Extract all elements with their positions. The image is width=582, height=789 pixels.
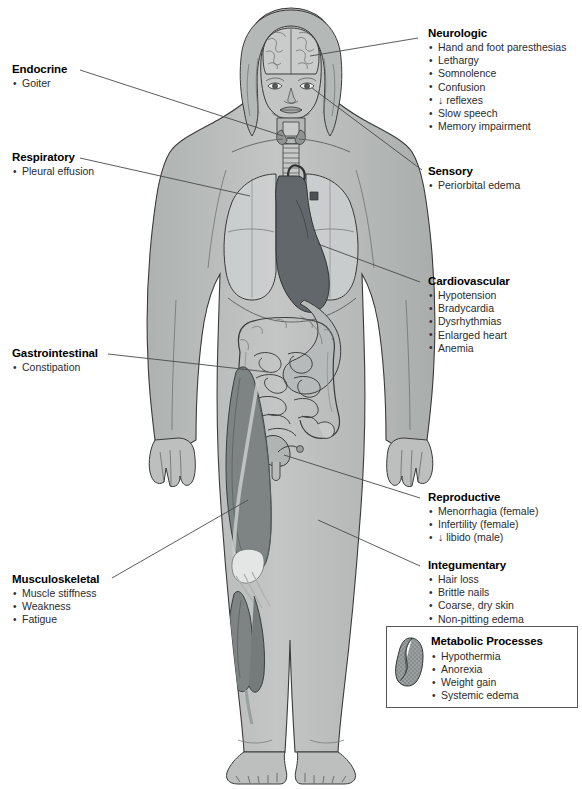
callout-gastrointestinal-list: Constipation <box>12 361 98 374</box>
callout-gastrointestinal-title: Gastrointestinal <box>12 347 98 360</box>
list-item: Constipation <box>12 361 98 374</box>
callout-metabolic-processes: Metabolic Processes Hypothermia Anorexia… <box>386 626 578 708</box>
list-item: Periorbital edema <box>428 179 520 192</box>
callout-neurologic-list: Hand and foot paresthesias Lethargy Somn… <box>428 41 566 133</box>
callout-integumentary-title: Integumentary <box>428 559 524 572</box>
list-item: Menorrhagia (female) <box>428 505 538 518</box>
callout-musculoskeletal-title: Musculoskeletal <box>12 573 99 586</box>
callout-reproductive: Reproductive Menorrhagia (female) Infert… <box>428 491 538 545</box>
list-item: Hand and foot paresthesias <box>428 41 566 54</box>
list-item: Weight gain <box>431 676 571 689</box>
list-item: Anorexia <box>431 663 571 676</box>
list-item: Somnolence <box>428 67 566 80</box>
list-item: Goiter <box>12 77 67 90</box>
list-item: Lethargy <box>428 54 566 67</box>
list-item: Hair loss <box>428 573 524 586</box>
list-item: ↓ libido (male) <box>428 531 538 544</box>
callout-respiratory: Respiratory Pleural effusion <box>12 151 94 178</box>
list-item: Pleural effusion <box>12 165 94 178</box>
callout-endocrine-list: Goiter <box>12 77 67 90</box>
list-item: Coarse, dry skin <box>428 599 524 612</box>
list-item: Memory impairment <box>428 120 566 133</box>
list-item: Weakness <box>12 600 99 613</box>
callout-integumentary: Integumentary Hair loss Brittle nails Co… <box>428 559 524 626</box>
list-item: Confusion <box>428 81 566 94</box>
callout-metabolic-list: Hypothermia Anorexia Weight gain Systemi… <box>431 650 571 702</box>
list-item: Muscle stiffness <box>12 587 99 600</box>
callout-gastrointestinal: Gastrointestinal Constipation <box>12 347 98 374</box>
metabolic-text-block: Metabolic Processes Hypothermia Anorexia… <box>431 634 571 702</box>
callout-cardiovascular-title: Cardiovascular <box>428 275 510 288</box>
list-item: ↓ reflexes <box>428 94 566 107</box>
list-item: Fatigue <box>12 613 99 626</box>
callout-sensory-title: Sensory <box>428 165 520 178</box>
list-item: Anemia <box>428 342 510 355</box>
callout-neurologic: Neurologic Hand and foot paresthesias Le… <box>428 27 566 133</box>
list-item: Hypothermia <box>431 650 571 663</box>
callout-musculoskeletal: Musculoskeletal Muscle stiffness Weaknes… <box>12 573 99 627</box>
callout-reproductive-title: Reproductive <box>428 491 538 504</box>
list-item: Non-pitting edema <box>428 613 524 626</box>
callout-cardiovascular-list: Hypotension Bradycardia Dysrhythmias Enl… <box>428 289 510 355</box>
callout-sensory: Sensory Periorbital edema <box>428 165 520 192</box>
list-item: Bradycardia <box>428 302 510 315</box>
list-item: Infertility (female) <box>428 518 538 531</box>
list-item: Brittle nails <box>428 586 524 599</box>
callout-endocrine: Endocrine Goiter <box>12 63 67 90</box>
callout-neurologic-title: Neurologic <box>428 27 566 40</box>
head-and-face <box>261 26 322 120</box>
callout-respiratory-title: Respiratory <box>12 151 94 164</box>
callout-musculoskeletal-list: Muscle stiffness Weakness Fatigue <box>12 587 99 627</box>
list-item: Enlarged heart <box>428 329 510 342</box>
callout-endocrine-title: Endocrine <box>12 63 67 76</box>
list-item: Hypotension <box>428 289 510 302</box>
list-item: Slow speech <box>428 107 566 120</box>
list-item: Systemic edema <box>431 689 571 702</box>
callout-sensory-list: Periorbital edema <box>428 179 520 192</box>
callout-integumentary-list: Hair loss Brittle nails Coarse, dry skin… <box>428 573 524 626</box>
callout-respiratory-list: Pleural effusion <box>12 165 94 178</box>
callout-reproductive-list: Menorrhagia (female) Infertility (female… <box>428 505 538 545</box>
callout-metabolic-title: Metabolic Processes <box>431 635 571 648</box>
callout-cardiovascular: Cardiovascular Hypotension Bradycardia D… <box>428 275 510 355</box>
brain <box>263 28 319 74</box>
hypothyroidism-diagram: Neurologic Hand and foot paresthesias Le… <box>0 0 582 789</box>
list-item: Dysrhythmias <box>428 315 510 328</box>
kidney-organ-icon <box>394 636 424 688</box>
